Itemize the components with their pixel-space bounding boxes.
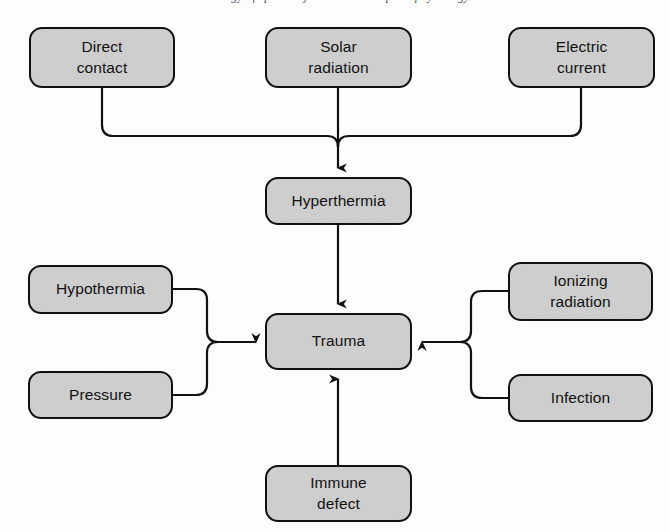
node-trauma: Trauma	[265, 313, 412, 370]
node-solar-radiation: Solarradiation	[265, 27, 412, 88]
node-immune-defect: Immunedefect	[265, 465, 412, 522]
node-hyperthermia: Hyperthermia	[265, 177, 412, 225]
node-label: Ionizingradiation	[544, 271, 616, 311]
node-label: Trauma	[306, 331, 371, 351]
node-label: Immunedefect	[304, 473, 373, 513]
node-label: Hyperthermia	[285, 191, 391, 211]
node-label: Electriccurrent	[550, 37, 614, 77]
node-label: Infection	[545, 388, 617, 408]
node-direct-contact: Directcontact	[29, 27, 175, 88]
node-electric-current: Electriccurrent	[508, 27, 655, 88]
node-ionizing-radiation: Ionizingradiation	[508, 262, 653, 321]
node-label: Directcontact	[71, 37, 134, 77]
edge-hypothermia-to-trauma	[173, 289, 229, 342]
edge-ionizing-radiation-to-trauma	[449, 291, 508, 342]
edge-pressure-to-trauma	[173, 342, 229, 395]
node-pressure: Pressure	[28, 371, 173, 419]
node-label: Pressure	[63, 385, 138, 405]
node-label: Hypothermia	[50, 279, 151, 299]
node-infection: Infection	[508, 374, 653, 422]
node-label: Solarradiation	[302, 37, 374, 77]
edge-infection-to-trauma	[449, 342, 508, 398]
edge-direct-contact-to-hyperthermia	[102, 88, 338, 147]
diagram-page: Etiology of sports injuries and their pa…	[0, 0, 670, 532]
edge-electric-current-to-hyperthermia	[338, 88, 581, 147]
node-hypothermia: Hypothermia	[28, 265, 173, 314]
